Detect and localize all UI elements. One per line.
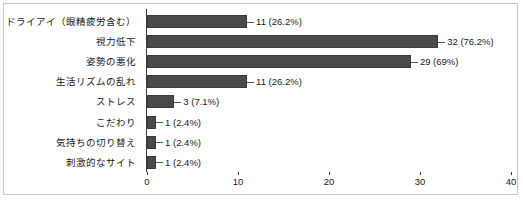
bar-value-label: 1 (2.4%): [165, 116, 201, 129]
category-label: 姿勢の悪化: [0, 55, 136, 69]
leader-line: [411, 62, 418, 63]
x-tick-label: 30: [415, 176, 426, 187]
bar: [147, 55, 411, 68]
category-label: ドライアイ（眼精疲労含む）: [0, 15, 136, 29]
x-tick-mark: [511, 172, 512, 175]
leader-line: [247, 82, 254, 83]
bar-value-label: 29 (69%): [420, 55, 459, 68]
bar-value-label: 1 (2.4%): [165, 156, 201, 169]
bar: [147, 116, 156, 129]
x-tick-label: 0: [144, 176, 149, 187]
category-label: 視力低下: [0, 35, 136, 49]
category-label: 気持ちの切り替え: [0, 136, 136, 150]
bar-value-label: 3 (7.1%): [183, 95, 219, 108]
bar: [147, 156, 156, 169]
category-label: ストレス: [0, 95, 136, 109]
bar-value-label: 11 (26.2%): [256, 75, 302, 88]
bar-value-label: 32 (76.2%): [447, 35, 493, 48]
leader-line: [174, 102, 181, 103]
leader-line: [156, 122, 163, 123]
bar-value-label: 11 (26.2%): [256, 15, 302, 28]
bar: [147, 136, 156, 149]
category-label: 刺激的なサイト: [0, 156, 136, 170]
leader-line: [247, 22, 254, 23]
x-tick-mark: [147, 172, 148, 175]
x-tick-mark: [420, 172, 421, 175]
bar: [147, 15, 247, 28]
x-tick-label: 10: [233, 176, 244, 187]
category-label: こだわり: [0, 116, 136, 130]
bar: [147, 75, 247, 88]
leader-line: [156, 142, 163, 143]
bar-value-label: 1 (2.4%): [165, 136, 201, 149]
x-tick-label: 40: [506, 176, 517, 187]
bar: [147, 95, 174, 108]
bar-chart-plot-area: 010203040 11 (26.2%)32 (76.2%)29 (69%)11…: [4, 4, 517, 194]
leader-line: [156, 162, 163, 163]
x-tick-mark: [238, 172, 239, 175]
x-tick-mark: [329, 172, 330, 175]
bar: [147, 35, 438, 48]
x-tick-label: 20: [324, 176, 335, 187]
leader-line: [438, 42, 445, 43]
category-label: 生活リズムの乱れ: [0, 75, 136, 89]
chart-frame: 010203040 11 (26.2%)32 (76.2%)29 (69%)11…: [3, 3, 518, 195]
